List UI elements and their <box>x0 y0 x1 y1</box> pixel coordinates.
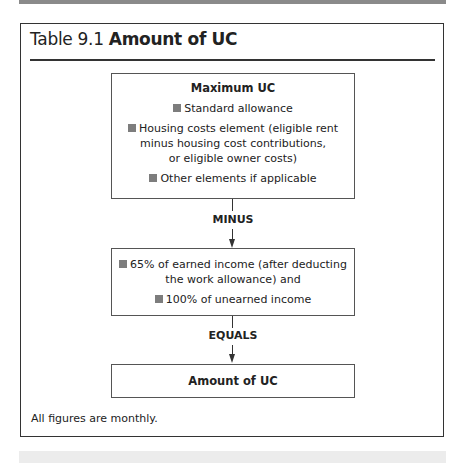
list-item: 65% of earned income (after deducting th… <box>112 257 354 287</box>
square-bullet-icon <box>128 124 136 132</box>
equals-label: EQUALS <box>133 329 333 342</box>
list-item: Housing costs element (eligible rent min… <box>112 121 354 166</box>
footnote: All figures are monthly. <box>31 412 158 425</box>
maximum-uc-heading: Maximum UC <box>112 81 354 96</box>
deductions-box: 65% of earned income (after deducting th… <box>111 248 355 316</box>
maximum-uc-box: Maximum UC Standard allowance Housing co… <box>111 73 355 199</box>
bottom-divider-bar <box>19 451 446 463</box>
table-title-bold: Amount of UC <box>109 29 237 49</box>
square-bullet-icon <box>155 295 163 303</box>
square-bullet-icon <box>149 174 157 182</box>
square-bullet-icon <box>173 104 181 112</box>
minus-label: MINUS <box>133 213 333 226</box>
amount-of-uc-box: Amount of UC <box>111 364 355 398</box>
list-item: 100% of unearned income <box>112 292 354 307</box>
top-divider-bar <box>19 0 446 4</box>
arrow-down-icon <box>229 354 235 363</box>
title-rule <box>30 59 435 61</box>
list-item: Standard allowance <box>112 101 354 116</box>
table-number: Table 9.1 <box>30 29 104 49</box>
square-bullet-icon <box>119 260 127 268</box>
connector-line <box>232 316 233 328</box>
connector-line <box>232 199 233 211</box>
list-item: Other elements if applicable <box>112 171 354 186</box>
arrow-down-icon <box>229 239 235 248</box>
amount-of-uc-heading: Amount of UC <box>112 374 354 389</box>
table-title: Table 9.1 Amount of UC <box>30 29 237 49</box>
